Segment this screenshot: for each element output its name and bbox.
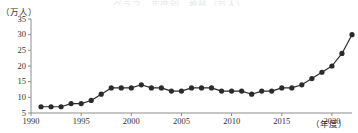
data-point (139, 82, 144, 87)
data-point (269, 88, 274, 93)
data-point (48, 104, 53, 109)
data-point (149, 85, 154, 90)
data-point (299, 82, 304, 87)
data-point (309, 76, 314, 81)
x-tick-label: 2005 (166, 117, 196, 126)
y-tick-label: 10 (4, 93, 26, 102)
y-tick-label: 20 (4, 62, 26, 71)
data-point (279, 85, 284, 90)
data-point (229, 88, 234, 93)
x-tick-label: 2000 (116, 117, 146, 126)
data-point (159, 85, 164, 90)
data-point (289, 85, 294, 90)
x-tick-label: 1990 (16, 117, 46, 126)
data-point (219, 88, 224, 93)
x-tick-label: 2020 (317, 117, 347, 126)
x-tick-label: 1995 (66, 117, 96, 126)
y-tick-label: 15 (4, 77, 26, 86)
data-point (189, 85, 194, 90)
y-tick-label: 25 (4, 46, 26, 55)
data-point (249, 92, 254, 97)
x-tick-label: 2010 (217, 117, 247, 126)
data-point (349, 32, 354, 37)
data-line (41, 35, 352, 107)
data-point (169, 88, 174, 93)
line-chart: グラフ 年度別 推移（万人） （万人） （年度） 5101520253035 1… (0, 0, 358, 133)
data-point (79, 101, 84, 106)
axis-lines (31, 19, 352, 113)
data-point (239, 88, 244, 93)
data-point (199, 85, 204, 90)
data-point (209, 85, 214, 90)
data-point (109, 85, 114, 90)
data-point (259, 88, 264, 93)
data-point (329, 63, 334, 68)
x-tick-label: 2015 (267, 117, 297, 126)
data-point (89, 98, 94, 103)
y-tick-label: 35 (4, 15, 26, 24)
data-point (319, 70, 324, 75)
data-point (99, 92, 104, 97)
data-point (129, 85, 134, 90)
chart-plot-area (0, 0, 358, 133)
y-tick-label: 30 (4, 30, 26, 39)
data-point-markers (38, 32, 354, 109)
data-point (58, 104, 63, 109)
data-point (339, 51, 344, 56)
data-point (38, 104, 43, 109)
data-point (179, 88, 184, 93)
data-point (119, 85, 124, 90)
data-point (69, 101, 74, 106)
